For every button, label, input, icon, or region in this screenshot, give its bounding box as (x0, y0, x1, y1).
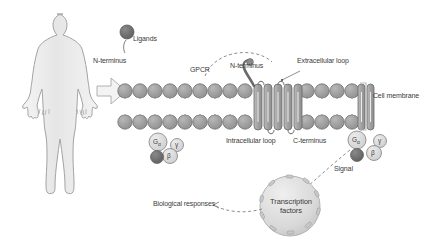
label-gpcr: GPCR (190, 66, 210, 74)
subunit-gamma-right: γ (378, 137, 381, 144)
gpcr-signaling-diagram: Ligands N-terminus GPCR N-terminus Extra… (0, 0, 429, 241)
label-signal: Signal (334, 165, 353, 173)
g-alpha-subscript-right: α (357, 139, 360, 145)
g-alpha-subscript: α (158, 141, 161, 147)
subunit-beta-left: β (167, 152, 171, 159)
label-n-terminus-right: N-terminus (230, 62, 263, 70)
human-silhouette-icon (23, 14, 98, 194)
subunit-g-alpha-right: Gα (352, 136, 360, 146)
label-n-terminus-left: N-terminus (93, 57, 126, 65)
subunit-gamma-left: γ (175, 141, 178, 148)
label-cell-membrane: Cell membrane (372, 92, 420, 100)
lipid-bilayer-icon (118, 84, 359, 129)
label-c-terminus: C-terminus (293, 137, 326, 145)
label-intracellular-loop: Intracellular loop (226, 137, 276, 145)
label-biological-responses: Biological responses (153, 200, 215, 208)
subunit-g-alpha-left: Gα (153, 138, 161, 148)
extracellular-loop-leader (281, 71, 300, 81)
label-extracellular-loop: Extracellular loop (297, 57, 349, 65)
biological-responses-arrow (213, 202, 262, 212)
ligand-sphere-icon (120, 25, 134, 53)
subunit-beta-right: β (371, 149, 375, 156)
label-transcription-factors: Transcription factors (263, 198, 319, 215)
label-ligands: Ligands (133, 35, 157, 43)
